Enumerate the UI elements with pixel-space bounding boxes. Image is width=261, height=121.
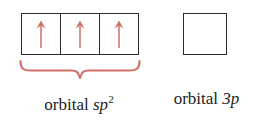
orbital-diagram: orbital sp2 orbital 3p: [0, 0, 261, 121]
up-arrow-icon: [35, 19, 48, 49]
3p-caption-prefix: orbital: [174, 89, 218, 108]
3p-caption: orbital 3p: [152, 88, 261, 110]
sp2-caption-term: sp: [93, 95, 108, 114]
sp2-orbital-box-row: [21, 13, 139, 55]
orbital-box-empty: [184, 14, 226, 54]
sp2-caption: orbital sp2: [0, 88, 158, 116]
3p-orbital-box-row: [183, 13, 227, 55]
orbital-box: [61, 14, 100, 54]
orbital-box: [22, 14, 61, 54]
curly-brace-icon: [18, 59, 142, 80]
sp2-caption-prefix: orbital: [44, 95, 88, 114]
3p-caption-term: 3p: [222, 89, 239, 108]
up-arrow-icon: [113, 19, 126, 49]
up-arrow-icon: [74, 19, 87, 49]
sp2-caption-superscript: 2: [108, 93, 114, 105]
orbital-box: [100, 14, 138, 54]
